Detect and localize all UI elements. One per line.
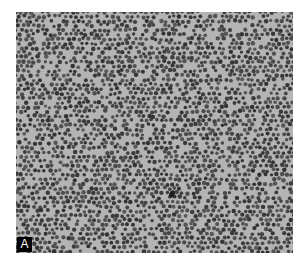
panel-label: A — [17, 237, 32, 252]
micrograph-image — [16, 12, 293, 253]
micrograph-panel: A — [16, 12, 293, 253]
